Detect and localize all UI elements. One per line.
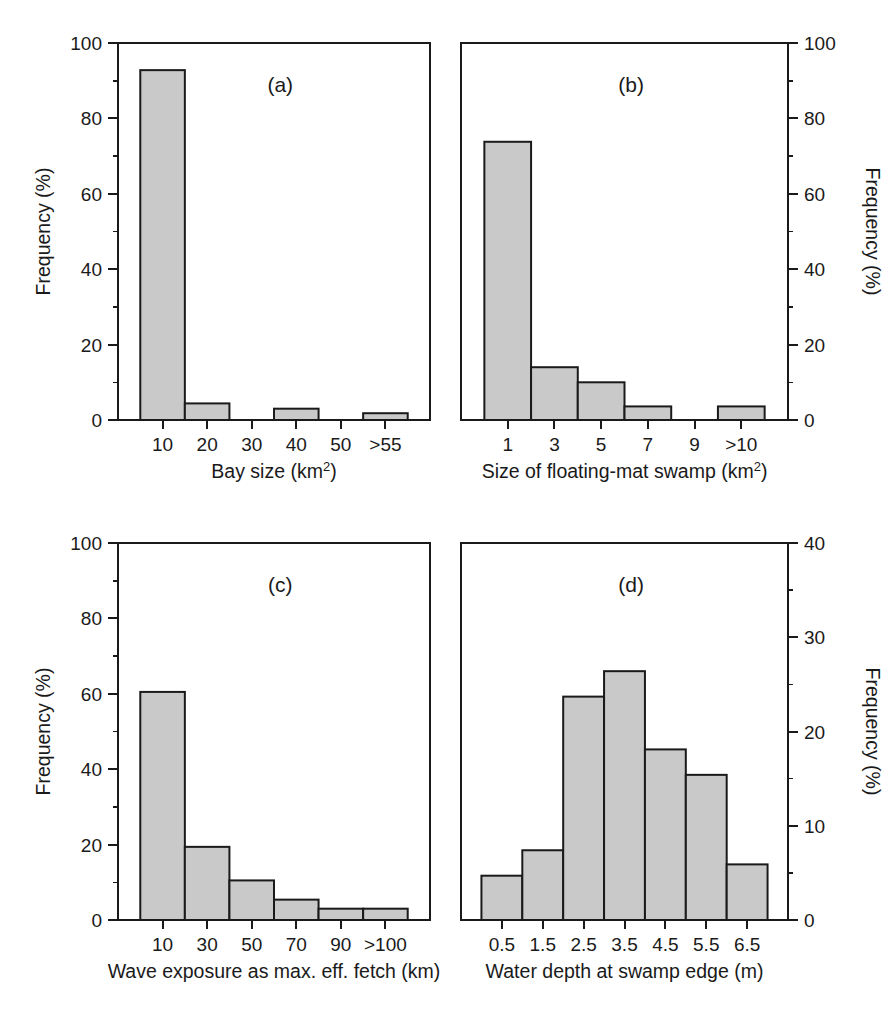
- histogram-bar: [645, 749, 686, 920]
- histogram-bar: [274, 900, 319, 920]
- y-tick-label: 100: [70, 33, 102, 54]
- figure-four-panel-histograms: 1020304050>55020406080100(a)Bay size (km…: [0, 0, 891, 1017]
- histogram-bar: [531, 367, 578, 420]
- x-tick-label: 30: [241, 434, 262, 455]
- x-tick-label: 0.5: [489, 934, 515, 955]
- x-tick-label: 4.5: [652, 934, 678, 955]
- histogram-bar: [563, 697, 604, 920]
- x-tick-label: 9: [689, 434, 700, 455]
- histogram-bar: [319, 909, 364, 920]
- histogram-bar: [274, 409, 319, 420]
- x-tick-label: 70: [286, 934, 307, 955]
- x-tick-label: 50: [241, 934, 262, 955]
- histogram-bar: [522, 850, 563, 920]
- y-tick-label: 20: [81, 335, 102, 356]
- panel-b-plot: 13579>10020406080100(b)Size of floating-…: [446, 10, 891, 500]
- y-tick-label: 60: [81, 684, 102, 705]
- x-tick-label: 10: [152, 934, 173, 955]
- y-tick-label: 100: [70, 533, 102, 554]
- histogram-bar: [578, 382, 625, 420]
- y-tick-label: 10: [804, 816, 825, 837]
- y-axis-title: Frequency (%): [32, 168, 54, 296]
- panel-a: 1020304050>55020406080100(a)Bay size (km…: [0, 10, 445, 500]
- x-tick-label: 3.5: [611, 934, 637, 955]
- x-tick-label: 50: [330, 434, 351, 455]
- y-tick-label: 60: [804, 184, 825, 205]
- y-axis-title: Frequency (%): [32, 668, 54, 796]
- panel-a-svg: 1020304050>55020406080100(a)Bay size (km…: [0, 10, 445, 500]
- y-tick-label: 80: [81, 108, 102, 129]
- panel-tag: (a): [267, 73, 293, 96]
- y-tick-label: 0: [91, 910, 102, 931]
- y-tick-label: 20: [804, 722, 825, 743]
- y-tick-label: 20: [81, 835, 102, 856]
- x-tick-label: 7: [643, 434, 654, 455]
- y-tick-label: 40: [81, 759, 102, 780]
- y-tick-label: 80: [804, 108, 825, 129]
- x-tick-label: 5.5: [693, 934, 719, 955]
- panel-c-svg: 1030507090>100020406080100(c)Wave exposu…: [0, 500, 445, 1000]
- x-tick-label: 90: [330, 934, 351, 955]
- x-tick-label: 20: [197, 434, 218, 455]
- histogram-bar: [185, 847, 230, 920]
- panel-tag: (d): [618, 573, 644, 596]
- panel-d-svg: 0.51.52.53.54.55.56.5010203040(d)Water d…: [446, 500, 891, 1000]
- histogram-bar: [718, 406, 765, 420]
- y-tick-label: 20: [804, 335, 825, 356]
- y-axis-title: Frequency (%): [862, 168, 884, 296]
- panel-b-svg: 13579>10020406080100(b)Size of floating-…: [446, 10, 891, 500]
- x-tick-label: 3: [549, 434, 560, 455]
- histogram-bar: [140, 692, 185, 920]
- histogram-bar: [185, 403, 230, 420]
- panel-c: 1030507090>100020406080100(c)Wave exposu…: [0, 500, 445, 1000]
- panel-d-plot: 0.51.52.53.54.55.56.5010203040(d)Water d…: [446, 500, 891, 1000]
- panel-tag: (c): [268, 573, 293, 596]
- x-tick-label: 30: [197, 934, 218, 955]
- histogram-bar: [481, 876, 522, 920]
- y-tick-label: 60: [81, 184, 102, 205]
- panel-d: 0.51.52.53.54.55.56.5010203040(d)Water d…: [446, 500, 891, 1000]
- x-tick-label: 6.5: [734, 934, 760, 955]
- x-axis-title: Wave exposure as max. eff. fetch (km): [108, 960, 441, 982]
- x-tick-label: 40: [286, 434, 307, 455]
- x-tick-label: 1.5: [530, 934, 556, 955]
- y-tick-label: 40: [81, 259, 102, 280]
- y-tick-label: 0: [91, 410, 102, 431]
- panel-tag: (b): [618, 73, 644, 96]
- histogram-bar: [229, 880, 274, 920]
- y-tick-label: 0: [804, 410, 815, 431]
- x-axis-title: Water depth at swamp edge (m): [486, 960, 764, 982]
- histogram-bar: [363, 413, 408, 420]
- panel-a-plot: 1020304050>55020406080100(a)Bay size (km…: [0, 10, 445, 500]
- histogram-bar: [484, 142, 531, 420]
- y-tick-label: 30: [804, 627, 825, 648]
- x-tick-label: 2.5: [570, 934, 596, 955]
- histogram-bar: [625, 406, 672, 420]
- histogram-bar: [727, 864, 768, 920]
- x-axis-title: Bay size (km2): [211, 459, 336, 482]
- x-tick-label: >55: [369, 434, 401, 455]
- histogram-bar: [686, 775, 727, 920]
- histogram-bar: [363, 909, 408, 920]
- x-tick-label: 5: [596, 434, 607, 455]
- y-axis-title: Frequency (%): [862, 668, 884, 796]
- panel-c-plot: 1030507090>100020406080100(c)Wave exposu…: [0, 500, 445, 1000]
- x-tick-label: >10: [725, 434, 757, 455]
- histogram-bar: [140, 70, 185, 420]
- y-tick-label: 40: [804, 533, 825, 554]
- x-tick-label: 1: [502, 434, 513, 455]
- y-tick-label: 100: [804, 33, 836, 54]
- histogram-bar: [604, 671, 645, 920]
- x-tick-label: >100: [364, 934, 407, 955]
- panel-b: 13579>10020406080100(b)Size of floating-…: [446, 10, 891, 500]
- y-tick-label: 80: [81, 608, 102, 629]
- x-axis-title: Size of floating-mat swamp (km2): [482, 459, 768, 482]
- y-tick-label: 0: [804, 910, 815, 931]
- y-tick-label: 40: [804, 259, 825, 280]
- x-tick-label: 10: [152, 434, 173, 455]
